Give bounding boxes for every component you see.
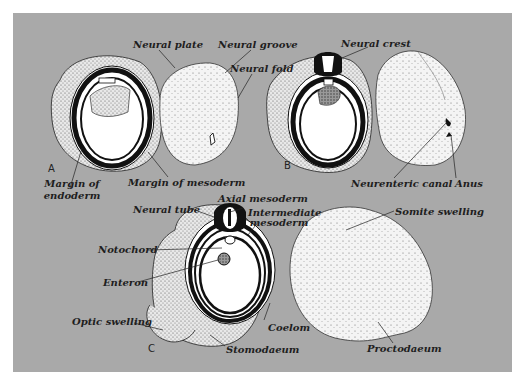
label-neural-fold: Neural fold [230, 63, 294, 74]
label-notochord: Notochord [98, 244, 157, 255]
label-enteron: Enteron [103, 277, 148, 288]
label-coelom: Coelom [268, 322, 310, 333]
label-optic-swelling: Optic swelling [72, 316, 152, 327]
label-margin-of-mesoderm: Margin of mesoderm [128, 177, 245, 188]
embryo-b-whole [376, 51, 466, 166]
label-margin-of-endoderm-line2: endoderm [42, 190, 102, 201]
label-margin-of-endoderm-line1: Margin of [42, 178, 102, 189]
label-somite-swelling: Somite swelling [395, 206, 484, 217]
embryo-a-section [51, 56, 162, 171]
panel-letter-b: B [284, 160, 291, 171]
label-neural-plate: Neural plate [133, 39, 203, 50]
label-intermediate-mesoderm-line2: mesoderm [248, 217, 310, 228]
label-neural-crest: Neural crest [341, 38, 411, 49]
label-neural-tube: Neural tube [133, 204, 200, 215]
embryo-c-whole [290, 207, 432, 341]
panel-letter-c: C [148, 343, 155, 354]
panel-letter-a: A [48, 163, 55, 174]
label-stomodaeum: Stomodaeum [226, 344, 299, 355]
label-neurenteric-canal: Neurenteric canal [351, 178, 452, 189]
label-axial-mesoderm: Axial mesoderm [218, 193, 308, 204]
label-neural-groove: Neural groove [218, 39, 298, 50]
label-anus: Anus [455, 178, 483, 189]
embryo-a-whole [160, 63, 239, 165]
label-proctodaeum: Proctodaeum [367, 343, 442, 354]
